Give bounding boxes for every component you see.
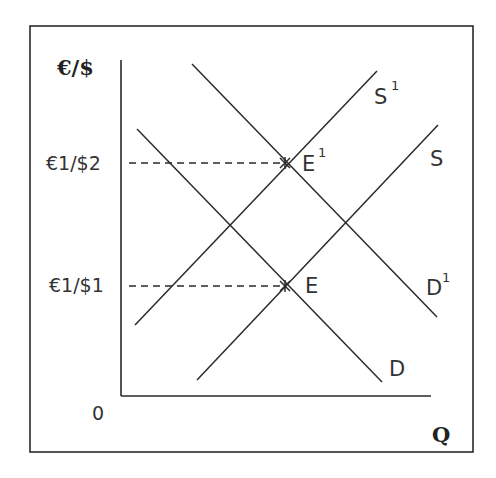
- x-axis-label: Q: [432, 422, 450, 447]
- equilibrium-label-e1-superscript: 1: [318, 145, 326, 160]
- supply-curve-s: [197, 125, 438, 380]
- equilibrium-label-e: E: [305, 274, 318, 298]
- supply-demand-diagram: €/$ Q 0 €1/$2 €1/$1 S 1 S D 1 D E 1 E: [0, 0, 496, 478]
- curve-label-d: D: [389, 357, 405, 381]
- equilibrium-label-e1: E: [302, 152, 315, 176]
- curve-label-d1: D: [426, 276, 442, 300]
- curve-label-s1-superscript: 1: [391, 78, 399, 93]
- origin-label: 0: [92, 402, 104, 424]
- curve-label-d1-superscript: 1: [442, 270, 450, 285]
- price-label-high: €1/$2: [46, 152, 101, 174]
- price-label-low: €1/$1: [49, 274, 104, 296]
- diagram-frame: [30, 26, 473, 452]
- supply-curve-s1: [135, 71, 377, 325]
- curve-label-s1: S: [374, 85, 387, 109]
- curve-label-s: S: [430, 147, 443, 171]
- y-axis-label: €/$: [56, 55, 94, 80]
- demand-curve-d: [137, 129, 382, 382]
